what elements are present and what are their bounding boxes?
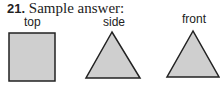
views-drawing xyxy=(0,0,220,93)
side-view-triangle xyxy=(86,32,140,78)
front-view-triangle xyxy=(167,31,219,77)
top-view-square xyxy=(9,33,55,81)
